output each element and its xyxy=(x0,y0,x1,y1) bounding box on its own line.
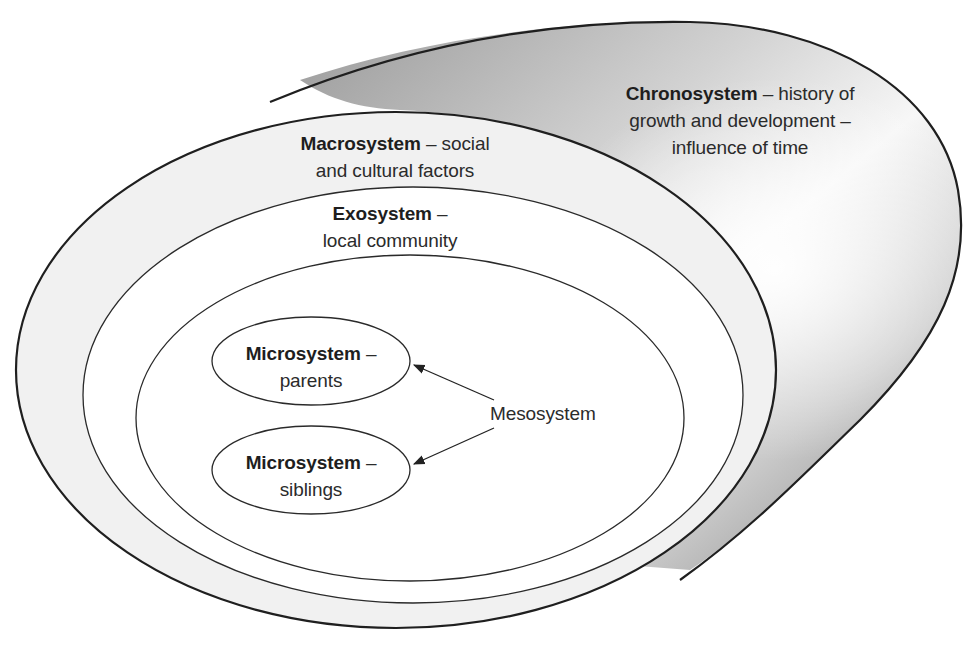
microsystem-parents-name: Microsystem xyxy=(246,343,361,364)
chronosystem-name: Chronosystem xyxy=(626,83,758,104)
macrosystem-name: Macrosystem xyxy=(300,133,420,154)
microsystem-siblings-line2: siblings xyxy=(216,476,406,503)
macrosystem-line2: and cultural factors xyxy=(270,157,520,184)
exosystem-name: Exosystem xyxy=(332,203,431,224)
microsystem-parents-label: Microsystem – parents xyxy=(216,340,406,394)
microsystem-siblings-name: Microsystem xyxy=(246,452,361,473)
microsystem-siblings-label: Microsystem – siblings xyxy=(216,449,406,503)
microsystem-parents-line2: parents xyxy=(216,367,406,394)
microsystem-siblings-line1: – xyxy=(361,452,377,473)
mesosystem-label: Mesosystem xyxy=(490,400,630,427)
microsystem-parents-line1: – xyxy=(361,343,377,364)
macrosystem-line1: – social xyxy=(421,133,490,154)
exosystem-label: Exosystem – local community xyxy=(290,200,490,254)
chronosystem-line1: – history of xyxy=(757,83,854,104)
chronosystem-label: Chronosystem – history of growth and dev… xyxy=(590,80,890,161)
exosystem-line1: – xyxy=(432,203,448,224)
mesosystem-name: Mesosystem xyxy=(490,403,596,424)
exosystem-line2: local community xyxy=(290,227,490,254)
chronosystem-line2: growth and development – xyxy=(590,107,890,134)
chronosystem-line3: influence of time xyxy=(590,134,890,161)
macrosystem-label: Macrosystem – social and cultural factor… xyxy=(270,130,520,184)
